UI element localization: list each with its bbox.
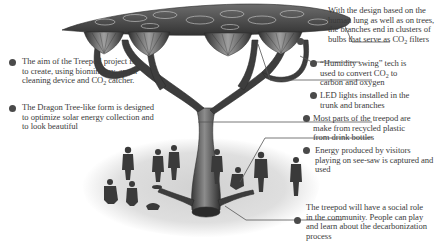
- note-humidity-swing-text: “Humidity swing” tech is used to convert…: [320, 59, 420, 88]
- bullet-icon: [303, 147, 310, 154]
- note-dragon-tree-form: The Dragon Tree-like form is designed to…: [22, 103, 157, 132]
- bullet-icon: [310, 60, 317, 67]
- bullet-icon: [9, 59, 16, 66]
- note-see-saw-energy-text: Energy produced by visitors playing on s…: [315, 146, 437, 175]
- note-lung-design: With the design based on the human lung …: [328, 6, 436, 44]
- bullet-icon: [303, 115, 310, 122]
- bullet-icon: [297, 38, 304, 45]
- bullet-icon: [9, 105, 16, 112]
- bullet-icon: [294, 217, 301, 224]
- note-aim-text: The aim of the Treepod project is to cre…: [22, 57, 142, 86]
- note-aim: The aim of the Treepod project is to cre…: [22, 57, 142, 86]
- note-social-role-text: The treepod will have a social role in t…: [306, 203, 430, 241]
- note-recycled-plastic: Most parts of the treepod are make from …: [313, 114, 419, 143]
- bullet-icon: [310, 92, 317, 99]
- note-dragon-tree-form-text: The Dragon Tree-like form is designed to…: [22, 103, 157, 132]
- note-social-role: The treepod will have a social role in t…: [306, 203, 430, 241]
- note-humidity-swing-block: “Humidity swing” tech is used to convert…: [320, 59, 420, 88]
- note-led-lights: LED lights installed in the trunk and br…: [320, 91, 420, 110]
- note-led-lights-text: LED lights installed in the trunk and br…: [320, 91, 420, 110]
- note-see-saw-energy: Energy produced by visitors playing on s…: [315, 146, 437, 175]
- note-recycled-plastic-text: Most parts of the treepod are make from …: [313, 114, 419, 143]
- note-lung-design-text: With the design based on the human lung …: [328, 6, 436, 44]
